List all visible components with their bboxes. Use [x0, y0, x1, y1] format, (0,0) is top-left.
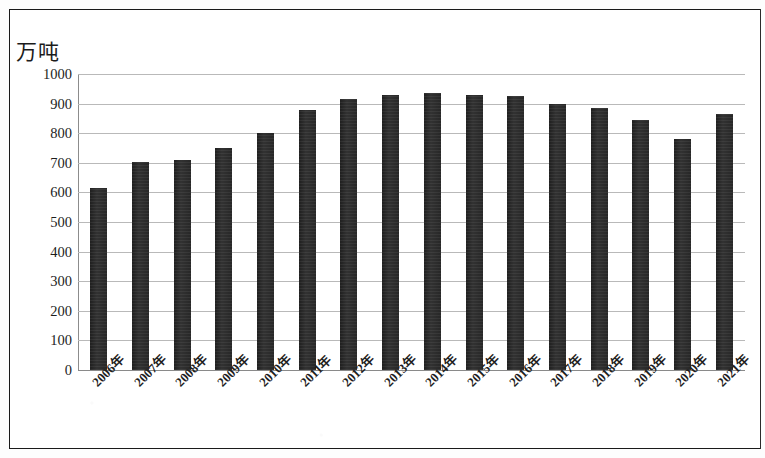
gridline: [78, 74, 745, 75]
bar: [507, 96, 524, 370]
bar: [549, 104, 566, 370]
page-border-right-edge: [760, 9, 761, 449]
y-axis-tick-label: 200: [10, 302, 72, 319]
bar: [382, 95, 399, 370]
y-axis-tick-label: 800: [10, 125, 72, 142]
y-axis-tick-label: 300: [10, 273, 72, 290]
bar: [591, 108, 608, 370]
bar: [466, 95, 483, 370]
bar: [215, 148, 232, 370]
bar: [174, 160, 191, 370]
y-axis-tick-labels: 10009008007006005004003002001000: [4, 74, 72, 371]
plot-area: [78, 74, 745, 370]
bar: [632, 120, 649, 370]
bar: [299, 110, 316, 370]
bar: [674, 139, 691, 370]
bar: [424, 93, 441, 370]
y-axis-unit-label: 万吨: [16, 35, 60, 65]
y-axis-tick-label: 600: [10, 184, 72, 201]
bar: [257, 133, 274, 370]
bar: [340, 99, 357, 370]
y-axis-tick-label: 500: [10, 214, 72, 231]
bar: [90, 188, 107, 370]
y-axis-tick-label: 700: [10, 154, 72, 171]
y-axis-tick-label: 100: [10, 332, 72, 349]
y-axis-tick-label: 0: [10, 362, 72, 379]
bar: [132, 162, 149, 370]
chart-page: 万吨 10009008007006005004003002001000 2006…: [0, 0, 765, 458]
y-axis-tick-label: 900: [10, 95, 72, 112]
gridline: [78, 104, 745, 105]
y-axis-tick-label: 1000: [10, 66, 72, 83]
y-axis-tick-label: 400: [10, 243, 72, 260]
x-axis-tick-labels: 2006年2007年2008年2009年2010年2011年2012年2013年…: [78, 371, 745, 451]
bar: [716, 114, 733, 370]
